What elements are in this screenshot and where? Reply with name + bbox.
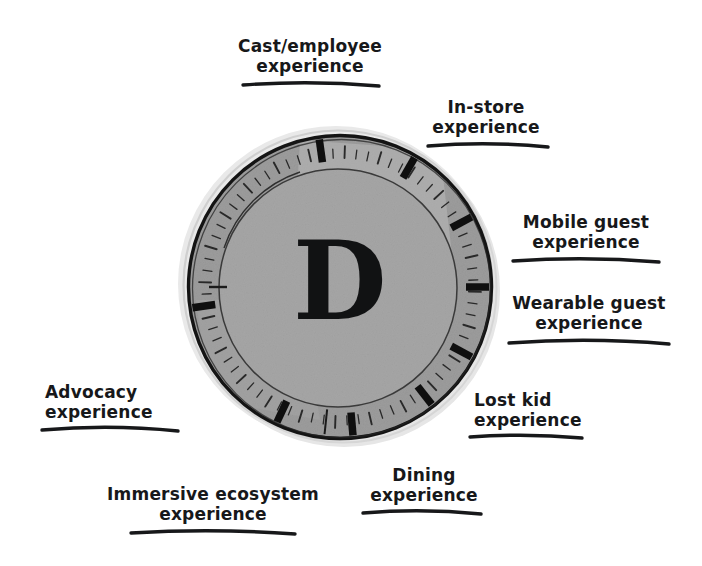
dial-major-tick-8 bbox=[192, 305, 215, 308]
label-cast-employee-experience: Cast/employeeexperience bbox=[228, 36, 392, 76]
label-line: experience bbox=[474, 410, 590, 430]
label-line: experience bbox=[104, 504, 322, 524]
label-line: Wearable guest bbox=[506, 293, 672, 313]
underline-cast-employee-experience bbox=[243, 83, 379, 86]
label-line: experience bbox=[228, 56, 392, 76]
label-line: Mobile guest bbox=[512, 212, 660, 232]
label-immersive-ecosystem-experience: Immersive ecosystemexperience bbox=[104, 484, 322, 524]
underline-lost-kid-experience bbox=[470, 435, 582, 438]
label-advocacy-experience: Advocacyexperience bbox=[45, 382, 179, 422]
underline-dining-experience bbox=[363, 511, 481, 514]
label-line: experience bbox=[45, 402, 179, 422]
label-line: experience bbox=[506, 313, 672, 333]
label-dining-experience: Diningexperience bbox=[365, 465, 483, 505]
label-wearable-guest-experience: Wearable guestexperience bbox=[506, 293, 672, 333]
dial-center-letter: D bbox=[293, 227, 387, 335]
underline-mobile-guest-experience bbox=[513, 259, 659, 262]
label-line: In-store bbox=[424, 97, 548, 117]
label-line: Dining bbox=[365, 465, 483, 485]
underline-immersive-ecosystem-experience bbox=[131, 531, 295, 534]
underline-in-store-experience bbox=[428, 144, 548, 147]
label-line: experience bbox=[424, 117, 548, 137]
dial-major-tick-6 bbox=[351, 413, 353, 436]
label-line: Immersive ecosystem bbox=[104, 484, 322, 504]
underline-advocacy-experience bbox=[42, 427, 178, 431]
label-line: experience bbox=[512, 232, 660, 252]
underline-wearable-guest-experience bbox=[509, 340, 669, 344]
label-mobile-guest-experience: Mobile guestexperience bbox=[512, 212, 660, 252]
label-line: Advocacy bbox=[45, 382, 179, 402]
label-in-store-experience: In-storeexperience bbox=[424, 97, 548, 137]
label-line: Cast/employee bbox=[228, 36, 392, 56]
label-lost-kid-experience: Lost kidexperience bbox=[474, 390, 590, 430]
label-line: Lost kid bbox=[474, 390, 590, 410]
label-line: experience bbox=[365, 485, 483, 505]
dial-major-tick-0 bbox=[319, 139, 322, 162]
